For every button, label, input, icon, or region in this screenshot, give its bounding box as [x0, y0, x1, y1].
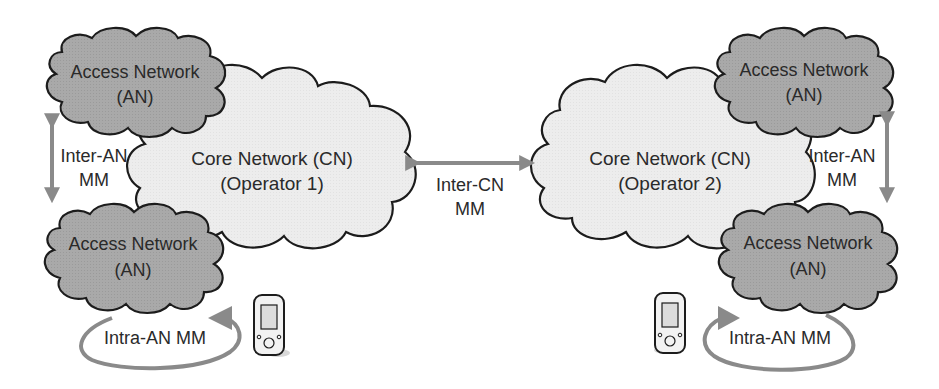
inter-an-right-line2: MM: [827, 170, 857, 190]
arrowhead-icon: [208, 306, 232, 330]
inter-cn-label-line1: Inter-CN: [436, 175, 504, 195]
access-network-cloud-right-top: Access Network (AN): [715, 28, 893, 137]
inter-cn-label-line2: MM: [455, 199, 485, 219]
mobile-phone-icon-right: [654, 293, 685, 354]
mobility-management-diagram: Core Network (CN) (Operator 1) Core Netw…: [0, 0, 939, 389]
access-network-cloud-left-top: Access Network (AN): [47, 28, 225, 137]
core-network-1-line1: Core Network (CN): [191, 148, 353, 169]
intra-an-loop-left: Intra-AN MM: [81, 306, 239, 368]
inter-an-right-line1: Inter-AN: [808, 146, 875, 166]
access-network-right-bottom-line2: (AN): [790, 259, 827, 279]
arrowhead-icon: [718, 306, 740, 330]
core-network-2-line1: Core Network (CN): [589, 148, 751, 169]
intra-an-left-label: Intra-AN MM: [104, 328, 206, 348]
core-network-2-line2: (Operator 2): [618, 173, 721, 194]
intra-an-loop-right: Intra-AN MM: [705, 306, 854, 370]
inter-an-left-line2: MM: [79, 170, 109, 190]
access-network-left-top-line2: (AN): [117, 87, 154, 107]
access-network-cloud-right-bottom: Access Network (AN): [719, 204, 897, 313]
access-network-left-top-line1: Access Network: [70, 62, 200, 82]
mobile-phone-icon-left: [254, 295, 290, 357]
access-network-right-bottom-line1: Access Network: [743, 233, 873, 253]
access-network-cloud-left-bottom: Access Network (AN): [45, 204, 223, 313]
inter-an-left-line1: Inter-AN: [60, 146, 127, 166]
inter-cn-arrow: Inter-CN MM: [414, 163, 528, 219]
access-network-right-top-line2: (AN): [786, 85, 823, 105]
intra-an-right-label: Intra-AN MM: [729, 328, 831, 348]
core-network-1-line2: (Operator 1): [220, 173, 323, 194]
access-network-right-top-line1: Access Network: [739, 60, 869, 80]
access-network-left-bottom-line2: (AN): [115, 260, 152, 280]
access-network-left-bottom-line1: Access Network: [68, 234, 198, 254]
